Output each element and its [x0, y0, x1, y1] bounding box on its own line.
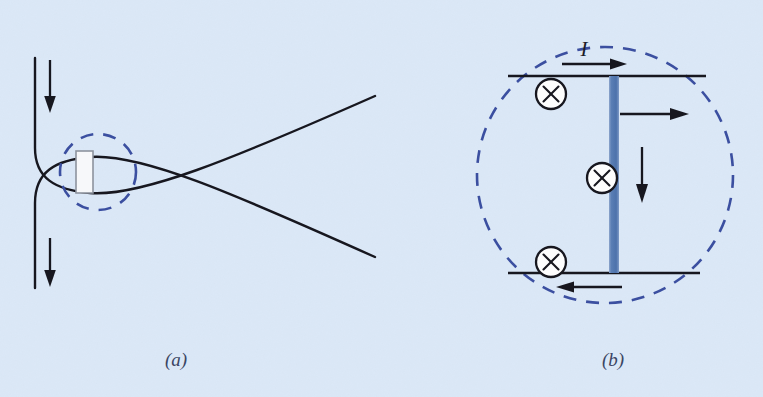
figure-root: (a) I — [0, 0, 763, 397]
panel-a-caption: (a) — [165, 349, 187, 371]
panel-b-caption: (b) — [602, 349, 624, 371]
current-label: I — [580, 37, 589, 61]
paper-grain-overlay — [0, 0, 763, 397]
current-cross-middle — [587, 163, 617, 193]
current-cross-top — [536, 79, 566, 109]
current-sheet-rectangle — [76, 151, 93, 193]
figure-canvas: (a) I — [0, 0, 763, 397]
current-cross-bottom — [536, 247, 566, 277]
